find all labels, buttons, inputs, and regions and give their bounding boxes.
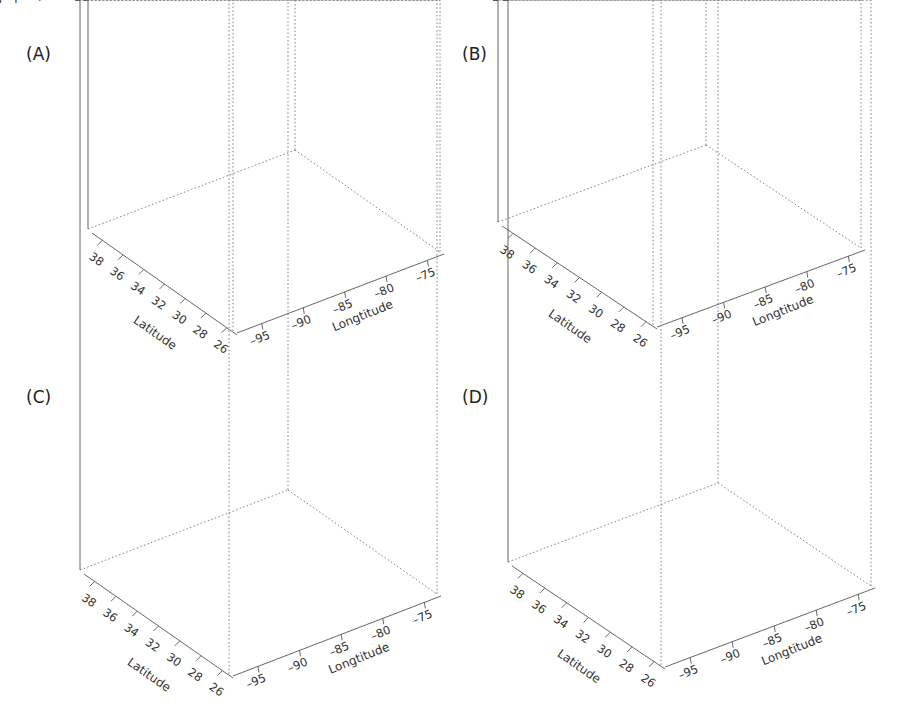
latitude-tick-label: 30 [586,301,606,321]
latitude-tick-label: 36 [519,257,539,277]
z-axis: -10123Spatial component [0,0,80,570]
latitude-tick-label: 32 [149,293,169,313]
latitude-tick-label: 38 [87,249,107,269]
longitude-tick-label: –75 [834,260,858,281]
latitude-tick-label: 28 [190,322,210,342]
longitude-axis: –95–90–85–80–75Longtitude [665,588,875,682]
panel-label: (D) [462,387,488,407]
z-tick-label: 3 [66,0,73,3]
latitude-tick-label: 26 [638,671,658,691]
longitude-tick-label: –90 [285,655,309,676]
latitude-tick-label: 30 [164,650,184,670]
latitude-tick-label: 32 [564,286,584,306]
latitude-tick-label: 28 [616,656,636,676]
latitude-axis: 38363432302826Latitude [497,226,657,350]
longitude-tick-label: –95 [668,322,692,343]
longitude-tick-label: –90 [709,307,733,328]
longitude-axis: –95–90–85–80–75Longtitude [657,250,865,343]
panel-label: (C) [26,387,51,407]
panel-label: (A) [26,44,51,64]
latitude-axis: 38363432302826Latitude [87,233,237,357]
longitude-tick-label: –90 [718,646,742,667]
latitude-axis: 38363432302826Latitude [507,566,665,690]
z-axis: -10123Random noise [0,0,508,562]
latitude-tick-label: 36 [100,605,120,625]
latitude-tick-label: 34 [551,612,571,632]
latitude-tick-label: 38 [79,590,99,610]
longitude-axis: –95–90–85–80–75Longtitude [237,254,444,348]
panel-d-random-noise: (D) -10123Random noise38363432302826Lati… [0,0,875,690]
longitude-axis: –95–90–85–80–75Longtitude [233,596,441,691]
longitude-tick-label: –75 [844,598,868,619]
latitude-tick-label: 36 [107,264,127,284]
latitude-tick-label: 26 [207,680,227,700]
z-axis: 00.511.522.53Trend [0,0,498,222]
latitude-tick-label: 26 [211,337,231,357]
latitude-tick-label: 28 [608,316,628,336]
longitude-tick-label: –95 [676,662,700,683]
latitude-axis: 38363432302826Latitude [79,574,233,699]
longitude-tick-label: –95 [248,328,272,349]
latitude-tick-label: 38 [507,582,527,602]
panel-label: (B) [462,44,487,64]
latitude-tick-label: 30 [169,308,189,328]
latitude-tick-label: 28 [185,665,205,685]
longitude-tick-label: –95 [244,671,268,692]
z-axis: 00.511.522.53Log (aquatics) [0,0,88,229]
z-axis-title: Random noise [0,0,43,3]
latitude-tick-label: 34 [128,278,148,298]
longitude-tick-label: –75 [410,607,434,628]
latitude-tick-label: 38 [497,242,517,262]
panel-a-log-aquatics: (A) 00.511.522.53Log (aquatics)383634323… [0,0,444,357]
figure-four-panel-3d-surfaces: (A) 00.511.522.53Log (aquatics)383634323… [0,0,921,718]
latitude-tick-label: 26 [630,331,650,351]
latitude-tick-label: 34 [121,620,141,640]
latitude-tick-label: 36 [529,597,549,617]
latitude-tick-label: 32 [573,626,593,646]
latitude-tick-label: 30 [595,641,615,661]
longitude-tick-label: –80 [372,280,396,301]
longitude-tick-label: –75 [413,264,437,285]
z-tick-label: 3 [494,0,501,3]
panel-b-trend: (B) 00.511.522.53Trend38363432302826Lati… [0,0,865,350]
latitude-tick-label: 32 [143,635,163,655]
longitude-tick-label: –80 [369,623,393,644]
longitude-tick-label: –80 [802,614,826,635]
latitude-tick-label: 34 [542,272,562,292]
longitude-tick-label: –90 [289,312,313,333]
